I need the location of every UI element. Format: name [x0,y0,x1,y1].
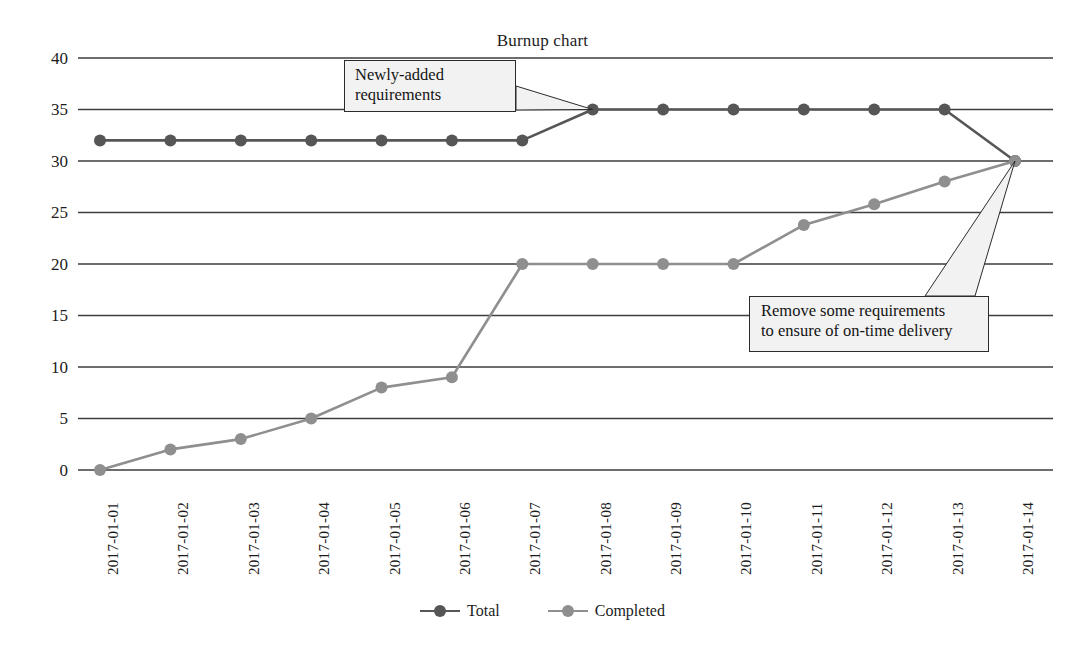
annotation-remove-requirements: Remove some requirements to ensure of on… [749,296,989,352]
x-tick-label: 2017-01-04 [317,502,332,575]
x-tick-label: 2017-01-03 [247,502,262,575]
x-tick-label: 2017-01-06 [458,502,473,575]
annotation-line: Remove some requirements [761,301,980,321]
annotation-line: Newly-added [355,65,507,85]
legend-label: Completed [595,602,665,619]
legend-item-completed: Completed [548,601,665,620]
x-tick-label: 2017-01-07 [528,502,543,575]
x-tick-label: 2017-01-05 [388,502,403,575]
x-tick-label: 2017-01-08 [599,502,614,575]
x-tick-label: 2017-01-13 [951,502,966,575]
legend-marker-total [420,605,460,617]
x-tick-label: 2017-01-01 [106,502,121,575]
chart-legend: Total Completed [0,600,1085,620]
annotation-line: to ensure of on-time delivery [761,321,980,341]
annotation-newly-added: Newly-added requirements [344,60,516,112]
legend-label: Total [467,602,500,619]
x-tick-label: 2017-01-10 [739,502,754,575]
x-tick-label: 2017-01-11 [810,503,825,575]
x-tick-label: 2017-01-12 [880,502,895,575]
legend-marker-completed [548,605,588,617]
x-tick-label: 2017-01-02 [176,502,191,575]
legend-item-total: Total [420,601,500,620]
x-tick-label: 2017-01-09 [669,502,684,575]
annotation-line: requirements [355,85,507,105]
x-tick-label: 2017-01-14 [1021,502,1036,575]
burnup-chart: Burnup chart 40 35 30 25 20 15 10 5 0 20… [0,0,1085,650]
